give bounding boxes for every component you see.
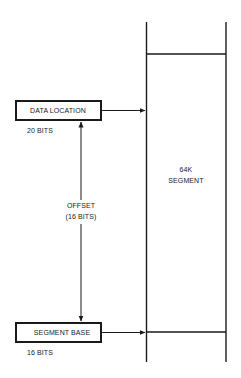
data-location-bits: 20 BITS xyxy=(27,127,53,134)
segment-size: 64K xyxy=(180,166,193,173)
diagram-canvas xyxy=(0,0,241,378)
segment-base-label: SEGMENT BASE xyxy=(34,329,90,336)
offset-label: OFFSET xyxy=(67,202,95,209)
segment-label: SEGMENT xyxy=(168,177,203,184)
segment-base-bits: 16 BITS xyxy=(27,349,53,356)
data-location-label: DATA LOCATION xyxy=(30,107,86,114)
offset-bits: (16 BITS) xyxy=(66,213,97,220)
